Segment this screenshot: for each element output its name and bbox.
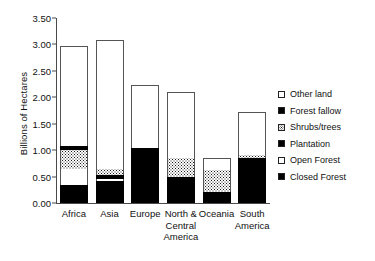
bar-segment-other-land <box>96 40 124 168</box>
bar-segment-other-land <box>131 85 159 148</box>
legend-item: Plantation <box>278 136 346 153</box>
x-axis-label-line: Central <box>148 220 214 232</box>
x-axis-label: SouthAmerica <box>219 208 285 231</box>
bar-top-edge <box>60 46 88 47</box>
bar-segment-closed-forest <box>167 177 195 203</box>
x-axis-label-line: South <box>219 208 285 220</box>
legend-item: Shrubs/trees <box>278 119 346 136</box>
bar-top-edge <box>238 112 266 113</box>
legend-item-label: Shrubs/trees <box>290 122 341 132</box>
y-axis-tick-mark <box>52 18 56 19</box>
bar-segment-other-land <box>238 112 266 156</box>
y-axis-tick-mark <box>52 176 56 177</box>
x-axis-label-line: America <box>148 231 214 243</box>
y-axis-tick-mark <box>52 150 56 151</box>
bar-segment-closed-forest <box>131 148 159 204</box>
chart-legend: Other landForest fallowShrubs/treesPlant… <box>278 86 346 185</box>
legend-swatch-icon <box>278 124 285 131</box>
legend-item-label: Open Forest <box>290 155 340 165</box>
bar-north-central-america <box>167 92 195 203</box>
bar-europe <box>131 85 159 203</box>
y-axis-tick-mark <box>52 44 56 45</box>
y-axis-tick-label: 0.50 <box>13 171 56 182</box>
y-axis-tick-label: 2.00 <box>13 92 56 103</box>
y-axis-tick-label: 3.50 <box>13 13 56 24</box>
y-axis-tick-label: 1.00 <box>13 145 56 156</box>
y-axis-tick-label: 1.50 <box>13 118 56 129</box>
stacked-bar-chart: Billions of Hectares 0.000.501.001.502.0… <box>0 0 375 261</box>
y-axis-line <box>56 18 57 204</box>
bar-segment-other-land <box>60 46 88 146</box>
bar-segment-other-land <box>203 158 231 170</box>
bar-top-edge <box>203 158 231 159</box>
legend-item: Other land <box>278 86 346 103</box>
legend-item-label: Plantation <box>290 139 330 149</box>
legend-swatch-icon <box>278 107 285 114</box>
y-axis-tick-mark <box>52 97 56 98</box>
bar-south-america <box>238 112 266 203</box>
x-axis-label-line: America <box>219 220 285 232</box>
bar-asia <box>96 40 124 203</box>
bar-top-edge <box>131 85 159 86</box>
legend-item-label: Forest fallow <box>290 106 341 116</box>
y-axis-tick-mark <box>52 123 56 124</box>
y-axis-tick-mark <box>52 203 56 204</box>
legend-swatch-icon <box>278 140 285 147</box>
y-axis-tick-mark <box>52 70 56 71</box>
bar-segment-other-land <box>167 92 195 158</box>
y-axis-tick-label: 0.00 <box>13 198 56 209</box>
bar-segment-open-forest <box>60 169 88 185</box>
legend-item: Closed Forest <box>278 169 346 186</box>
legend-swatch-icon <box>278 173 285 180</box>
bar-top-edge <box>167 92 195 93</box>
y-axis-tick-label: 3.00 <box>13 39 56 50</box>
legend-item-label: Other land <box>290 89 332 99</box>
legend-item: Forest fallow <box>278 103 346 120</box>
x-axis-line <box>56 203 270 204</box>
bar-segment-closed-forest <box>203 192 231 203</box>
legend-item-label: Closed Forest <box>290 172 346 182</box>
bar-segment-closed-forest <box>96 181 124 203</box>
legend-swatch-icon <box>278 157 285 164</box>
bar-oceania <box>203 158 231 203</box>
y-axis-tick-label: 2.50 <box>13 65 56 76</box>
bar-top-edge <box>96 40 124 41</box>
bar-segment-closed-forest <box>238 160 266 203</box>
bar-africa <box>60 46 88 203</box>
bar-segment-shrubs-trees <box>60 150 88 169</box>
legend-item: Open Forest <box>278 152 346 169</box>
bar-segment-shrubs-trees <box>167 158 195 177</box>
legend-swatch-icon <box>278 91 285 98</box>
bar-segment-closed-forest <box>60 185 88 204</box>
bar-segment-shrubs-trees <box>203 170 231 192</box>
plot-area: 0.000.501.001.502.002.503.003.50AfricaAs… <box>56 18 270 204</box>
